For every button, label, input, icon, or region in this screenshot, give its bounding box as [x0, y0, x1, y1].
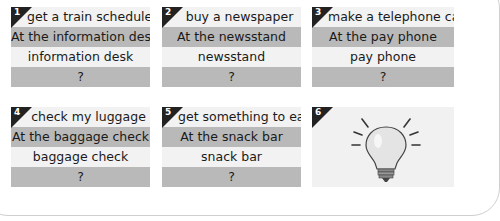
card-prompt: ?: [162, 167, 301, 187]
card-3: make a telephone call At the pay phone p…: [312, 7, 454, 87]
card-prompt: ?: [162, 67, 301, 87]
card-2: buy a newspaper At the newsstand newssta…: [162, 7, 301, 87]
card-prompt: ?: [11, 167, 150, 187]
badge-number: 4: [14, 107, 20, 117]
card-prompt: ?: [312, 67, 454, 87]
badge-number: 3: [315, 7, 321, 17]
card-answer: At the baggage check: [11, 127, 150, 147]
card-answer: At the newsstand: [162, 27, 301, 47]
card-6: 6: [312, 107, 454, 187]
card-place: snack bar: [162, 147, 301, 167]
card-4: check my luggage At the baggage check ba…: [11, 107, 150, 187]
card-place: newsstand: [162, 47, 301, 67]
lightbulb-icon: [312, 107, 454, 187]
badge-number: 5: [165, 107, 171, 117]
card-answer: At the pay phone: [312, 27, 454, 47]
card-answer: At the information desk: [11, 27, 150, 47]
card-place: information desk: [11, 47, 150, 67]
badge-number: 2: [165, 7, 171, 17]
card-place: pay phone: [312, 47, 454, 67]
card-5: get something to eat At the snack bar sn…: [162, 107, 301, 187]
card-place: baggage check: [11, 147, 150, 167]
badge-number: 1: [14, 7, 20, 17]
badge-number: 6: [315, 107, 321, 117]
card-1: get a train schedule At the information …: [11, 7, 150, 87]
card-activity: make a telephone call: [312, 7, 454, 27]
card-prompt: ?: [11, 67, 150, 87]
card-answer: At the snack bar: [162, 127, 301, 147]
